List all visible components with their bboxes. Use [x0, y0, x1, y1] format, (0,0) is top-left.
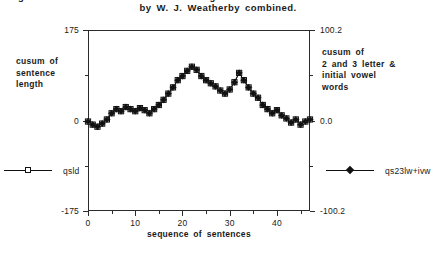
tick-label-x-0: 0	[86, 218, 91, 228]
tick-label-y-left-0: 175	[64, 25, 79, 35]
tick-x-minor-3	[253, 211, 254, 214]
tick-y-right-2	[310, 211, 315, 212]
tick-x-0	[88, 211, 89, 216]
tick-x-minor-0	[112, 211, 113, 214]
chart-title: Figure 2. Cusum chart of sentence length…	[0, 0, 436, 13]
tick-y-right-minor-1	[310, 166, 313, 167]
y-axis-right-title: cusum of 2 and 3 letter & initial vowel …	[322, 47, 434, 93]
tick-x-2	[182, 211, 183, 216]
tick-label-y-left-1: 0	[74, 116, 79, 126]
legend-qs23lw-ivw[interactable]: qs23lw+ivw	[326, 165, 431, 176]
tick-label-y-right-1: 0.0	[320, 116, 332, 126]
tick-label-y-right-0: 100.2	[320, 25, 342, 35]
legend-label-left: qsld	[63, 166, 79, 176]
open-square-icon	[4, 165, 52, 176]
tick-x-minor-2	[206, 211, 207, 214]
tick-x-4	[277, 211, 278, 216]
y-axis-left-title-line-3: length	[16, 79, 86, 91]
legend-label-right: qs23lw+ivw	[385, 166, 431, 176]
series-qs23lw+ivw	[85, 64, 313, 130]
y-axis-right-title-line-4: words	[322, 82, 434, 94]
x-axis-title: sequence of sentences	[88, 229, 310, 239]
tick-x-3	[230, 211, 231, 216]
y-axis-left-title-line-2: sentence	[16, 68, 86, 80]
tick-y-right-minor-0	[310, 75, 313, 76]
tick-label-y-right-2: -100.2	[320, 206, 345, 216]
plot-area: 1750-175100.20.0-100.2010203040	[88, 30, 310, 211]
tick-label-x-4: 40	[272, 218, 282, 228]
tick-label-x-1: 10	[130, 218, 140, 228]
y-axis-left-title-line-1: cusum of	[16, 56, 86, 68]
tick-x-minor-4	[301, 211, 302, 214]
legend-qsld[interactable]: qsld	[4, 165, 79, 176]
tick-x-1	[135, 211, 136, 216]
tick-y-right-0	[310, 30, 315, 31]
tick-label-x-2: 20	[178, 218, 188, 228]
tick-label-x-3: 30	[225, 218, 235, 228]
series-plot	[88, 30, 310, 211]
y-axis-right-title-line-1: cusum of	[322, 47, 434, 59]
y-axis-right-title-line-3: initial vowel	[322, 70, 434, 82]
tick-label-y-left-2: -175	[61, 206, 79, 216]
series-qsld	[85, 64, 312, 129]
tick-x-minor-1	[159, 211, 160, 214]
chart-canvas: Figure 2. Cusum chart of sentence length…	[0, 0, 436, 253]
y-axis-right-title-line-2: 2 and 3 letter &	[322, 59, 434, 71]
filled-diamond-icon	[326, 165, 374, 176]
y-axis-left-title: cusum of sentence length	[16, 56, 86, 91]
chart-title-line-2: by W. J. Weatherby combined.	[0, 2, 436, 13]
